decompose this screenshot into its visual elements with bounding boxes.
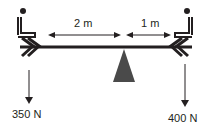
right-distance-label: 1 m: [141, 17, 159, 29]
left-force-label: 350 N: [12, 108, 41, 120]
fulcrum-triangle: [113, 49, 135, 82]
seesaw-diagram: 2 m 1 m 350 N 400 N: [0, 0, 209, 134]
seesaw-beam: [20, 46, 192, 49]
right-force-arrow: [181, 64, 189, 107]
right-person-icon: [171, 8, 192, 56]
right-distance-arrow: [126, 32, 171, 38]
left-distance-arrow: [48, 32, 121, 38]
left-distance-label: 2 m: [74, 17, 92, 29]
left-person-icon: [18, 8, 39, 56]
right-force-label: 400 N: [168, 112, 197, 124]
left-force-arrow: [25, 70, 33, 104]
